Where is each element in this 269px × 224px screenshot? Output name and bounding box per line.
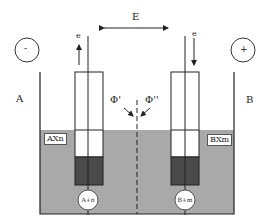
electrode-a-label: A [16,94,23,104]
electrode-b-label: B [246,95,253,105]
electron-label-left: e [76,32,81,40]
electron-label-right: e [192,30,197,38]
negative-sign: - [24,44,27,53]
right-ion-label: B+m [174,196,196,204]
right-solution-label: BXm [207,134,232,146]
left-solution-label: AXn [44,133,67,145]
field-label: E [132,12,139,22]
phi-left-label: Φ' [110,95,121,105]
phi-right-label: Φ'' [145,95,159,105]
positive-sign: + [240,45,248,54]
electrochemical-cell-diagram [0,0,269,224]
left-ion-label: A+n [77,196,99,204]
